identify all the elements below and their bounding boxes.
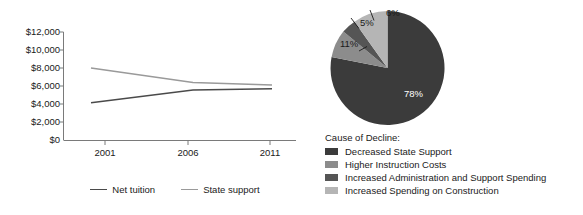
legend-label-net-tuition: Net tuition xyxy=(112,184,155,195)
pie-legend-label-higher-instruction-costs: Higher Instruction Costs xyxy=(345,159,446,170)
line-chart: $12,000 $10,000 $8,000 $6,000 $4,000 $2,… xyxy=(0,0,300,215)
pie-value-label-78: 78% xyxy=(404,88,423,99)
legend-label-state-support: State support xyxy=(203,184,260,195)
legend-entry-net-tuition: Net tuition xyxy=(90,184,155,195)
figure-two-charts: $12,000 $10,000 $8,000 $6,000 $4,000 $2,… xyxy=(0,0,583,215)
pie-legend-row-increased-administration-and-support-spending: Increased Administration and Support Spe… xyxy=(325,171,583,184)
pie-graphic xyxy=(320,3,455,133)
pie-legend-swatch-higher-instruction-costs xyxy=(325,161,338,168)
pie-legend-label-decreased-state-support: Decreased State Support xyxy=(345,146,452,157)
pie-legend-title: Cause of Decline: xyxy=(325,131,583,144)
pie-legend-swatch-increased-spending-on-construction xyxy=(325,187,338,194)
pie-legend-row-decreased-state-support: Decreased State Support xyxy=(325,145,583,158)
pie-legend-swatch-decreased-state-support xyxy=(325,148,338,155)
legend-line-swatch-state-support xyxy=(181,189,198,190)
x-tick-label-2006: 2006 xyxy=(177,148,198,158)
pie-value-label-11: 11% xyxy=(340,38,358,49)
x-tick-label-2011: 2011 xyxy=(260,148,280,158)
series-line-state-support xyxy=(91,68,272,85)
line-chart-legend: Net tuition State support xyxy=(60,184,290,195)
pie-legend-row-increased-spending-on-construction: Increased Spending on Construction xyxy=(325,184,583,197)
pie-chart: 78% 11% 5% 6% Cause of Decline: Decrease… xyxy=(300,0,583,215)
legend-line-swatch-net-tuition xyxy=(90,189,107,190)
pie-legend-swatch-increased-administration-and-support-spending xyxy=(325,174,338,181)
legend-entry-state-support: State support xyxy=(181,184,260,195)
line-plot-area xyxy=(0,0,300,215)
pie-legend-label-increased-administration-and-support-spending: Increased Administration and Support Spe… xyxy=(345,172,546,183)
series-line-net-tuition xyxy=(91,89,272,103)
pie-value-label-6: 6% xyxy=(386,7,400,18)
pie-legend-row-higher-instruction-costs: Higher Instruction Costs xyxy=(325,158,583,171)
x-tick-label-2001: 2001 xyxy=(94,148,115,158)
pie-value-label-5: 5% xyxy=(360,17,374,28)
pie-chart-legend: Cause of Decline: Decreased State Suppor… xyxy=(325,131,583,197)
pie-legend-label-increased-spending-on-construction: Increased Spending on Construction xyxy=(345,185,499,196)
